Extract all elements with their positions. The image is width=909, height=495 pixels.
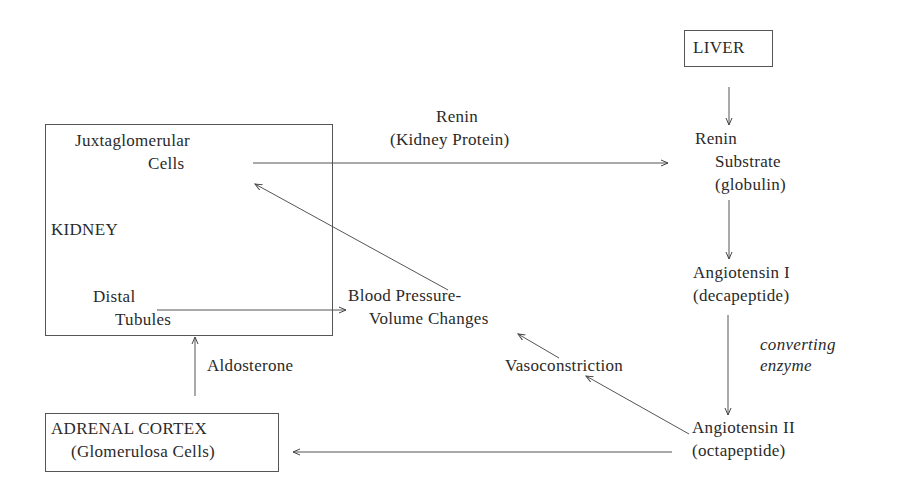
converting-enzyme-label-2: enzyme: [760, 355, 812, 377]
juxtaglomerular-label-2: Cells: [148, 153, 184, 175]
adrenal-cortex-label-1: ADRENAL CORTEX: [51, 418, 207, 440]
blood-pressure-label-1: Blood Pressure-: [348, 285, 462, 307]
renin-substrate-label-3: (globulin): [715, 174, 786, 196]
converting-enzyme-label-1: converting: [760, 334, 836, 356]
blood-pressure-label-2: Volume Changes: [369, 308, 489, 330]
angiotensin2-to-vasoconstriction-arrow: [586, 376, 689, 434]
angiotensin2-label-2: (octapeptide): [692, 440, 786, 462]
aldosterone-label: Aldosterone: [207, 355, 293, 377]
renin-edge-label-1: Renin: [436, 106, 478, 128]
angiotensin2-label-1: Angiotensin II: [692, 417, 795, 439]
angiotensin1-label-1: Angiotensin I: [693, 262, 790, 284]
kidney-label: KIDNEY: [51, 219, 118, 241]
liver-label: LIVER: [693, 37, 745, 59]
angiotensin1-label-2: (decapeptide): [693, 285, 789, 307]
bp-to-juxtaglomerular-arrow: [255, 184, 448, 290]
adrenal-cortex-label-2: (Glomerulosa Cells): [71, 441, 215, 463]
juxtaglomerular-label-1: Juxtaglomerular: [75, 130, 190, 152]
renin-substrate-label-2: Substrate: [715, 151, 781, 173]
distal-label-2: Tubules: [115, 309, 171, 331]
renin-edge-label-2: (Kidney Protein): [390, 129, 510, 151]
renin-substrate-label-1: Renin: [695, 128, 737, 150]
vasoconstriction-label: Vasoconstriction: [505, 355, 623, 377]
distal-label-1: Distal: [93, 286, 135, 308]
